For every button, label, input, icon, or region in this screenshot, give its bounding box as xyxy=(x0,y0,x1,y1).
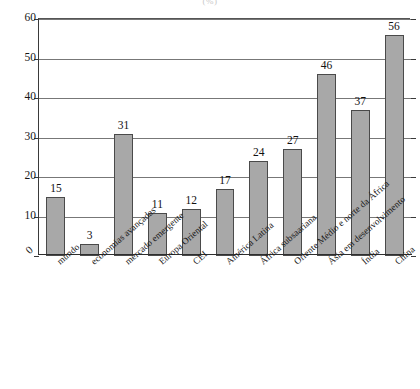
bar-chart: (%) 153311112172427463756 102030405060 0… xyxy=(0,0,420,389)
bar-value-label: 37 xyxy=(341,95,380,107)
y-axis-tick-label: 60 xyxy=(6,12,36,23)
bar-value-label: 24 xyxy=(239,146,278,158)
bar-value-label: 31 xyxy=(104,119,143,131)
y-axis-tick-mark xyxy=(34,256,39,257)
gridline xyxy=(39,59,411,60)
bar-value-label: 3 xyxy=(70,229,109,241)
y-axis-tick-label: 50 xyxy=(6,52,36,63)
bar-value-label: 12 xyxy=(172,194,211,206)
y-axis-tick-mark-right xyxy=(411,217,416,218)
y-axis-zero-label: 0 xyxy=(23,243,35,256)
chart-unit-note: (%) xyxy=(0,0,420,6)
gridline xyxy=(39,19,411,20)
y-axis-tick-mark-right xyxy=(411,177,416,178)
y-axis-tick-mark-right xyxy=(411,59,416,60)
y-axis-tick-label: 40 xyxy=(6,91,36,102)
bar-value-label: 46 xyxy=(307,59,346,71)
bar-value-label: 27 xyxy=(273,134,312,146)
y-axis-tick-mark-right xyxy=(411,138,416,139)
bar-value-label: 15 xyxy=(36,182,75,194)
bar xyxy=(46,197,65,256)
bar-value-label: 56 xyxy=(375,20,414,32)
plot-area: 153311112172427463756 xyxy=(38,18,410,255)
y-axis-tick-label: 10 xyxy=(6,210,36,221)
y-axis-tick-label: 30 xyxy=(6,131,36,142)
y-axis-tick-mark-right xyxy=(411,256,416,257)
bar-value-label: 17 xyxy=(206,174,245,186)
bar xyxy=(216,189,235,256)
y-axis-tick-label: 20 xyxy=(6,170,36,181)
bar xyxy=(385,35,404,256)
y-axis-tick-mark-right xyxy=(411,98,416,99)
